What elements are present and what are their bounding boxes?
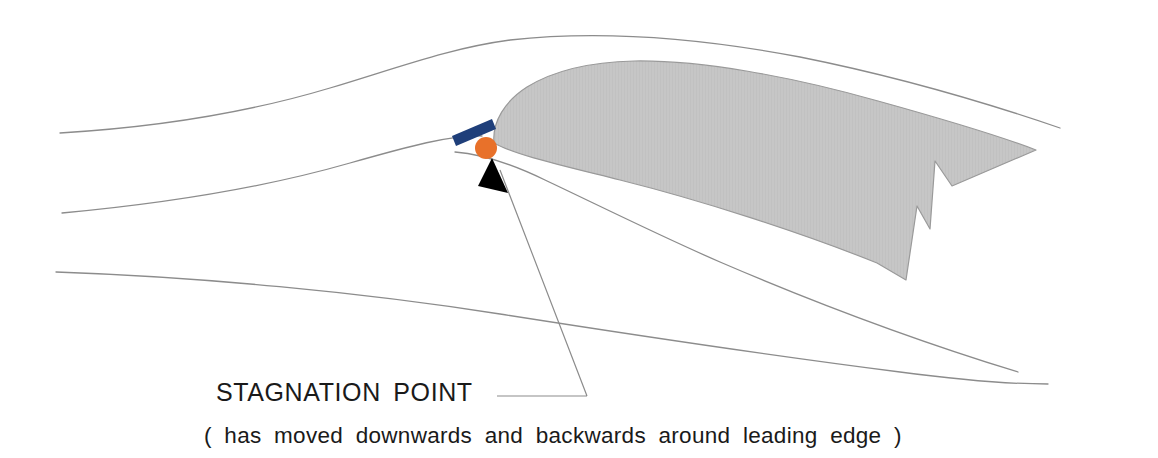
stagnation-point-marker (475, 137, 497, 159)
diagram-canvas (0, 0, 1158, 458)
stagnation-point-diagram: STAGNATION POINT ( has moved downwards a… (0, 0, 1158, 458)
